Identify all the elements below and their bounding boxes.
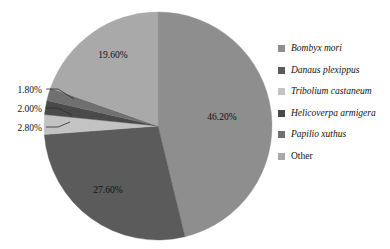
legend-swatch-icon xyxy=(278,110,285,117)
legend-item-papilio-xuthus[interactable]: Papilio xuthus xyxy=(278,124,390,146)
legend-item-label: Other xyxy=(291,152,313,162)
slice-value-label-danaus-plexippus: 27.60% xyxy=(93,185,122,195)
legend-swatch-icon xyxy=(278,88,285,95)
legend-item-bombyx-mori[interactable]: Bombyx mori xyxy=(278,38,390,60)
legend-item-label: Bombyx mori xyxy=(291,44,342,54)
legend-swatch-icon xyxy=(278,67,285,74)
legend-item-label: Papilio xuthus xyxy=(291,130,346,140)
legend-item-danaus-plexippus[interactable]: Danaus plexippus xyxy=(278,60,390,82)
slice-value-label-other: 19.60% xyxy=(98,50,127,60)
legend-item-label: Tribolium castaneum xyxy=(291,87,372,97)
legend-item-tribolium-castaneum[interactable]: Tribolium castaneum xyxy=(278,81,390,103)
pie-chart-figure: 46.20% 27.60% 19.60% 1.80% 2.00% 2.80% B… xyxy=(0,0,390,249)
legend-item-label: Helicoverpa armigera xyxy=(291,109,376,119)
legend-swatch-icon xyxy=(278,131,285,138)
legend-swatch-icon xyxy=(278,45,285,52)
slice-value-label-tribolium-castaneum: 2.80% xyxy=(17,123,42,133)
slice-value-label-helicoverpa-armigera: 2.00% xyxy=(17,104,42,114)
legend-item-helicoverpa-armigera[interactable]: Helicoverpa armigera xyxy=(278,103,390,125)
chart-legend: Bombyx mori Danaus plexippus Tribolium c… xyxy=(278,38,390,167)
legend-item-other[interactable]: Other xyxy=(278,146,390,168)
slice-value-label-papilio-xuthus: 1.80% xyxy=(17,85,42,95)
legend-swatch-icon xyxy=(278,153,285,160)
pie-slice-group xyxy=(44,12,272,240)
slice-value-label-bombyx-mori: 46.20% xyxy=(207,112,236,122)
legend-item-label: Danaus plexippus xyxy=(291,66,359,76)
